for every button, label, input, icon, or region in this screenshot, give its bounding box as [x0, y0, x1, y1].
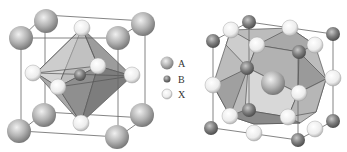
sphere-A-icon: [161, 57, 174, 70]
atom-A: [261, 71, 285, 95]
legend: A B X: [161, 57, 187, 101]
legend-item-A: A: [161, 57, 187, 70]
atom-B: [74, 69, 86, 81]
legend-label-B: B: [178, 74, 185, 85]
legend-label-X: X: [178, 89, 186, 100]
right-structure: [204, 15, 341, 147]
sphere-B-icon: [164, 76, 171, 83]
legend-label-A: A: [178, 58, 186, 69]
legend-item-B: B: [164, 74, 186, 85]
legend-item-X: X: [162, 89, 186, 100]
perovskite-diagram: A B X: [0, 0, 347, 152]
sphere-X-icon: [162, 89, 172, 99]
left-structure: [7, 9, 155, 149]
